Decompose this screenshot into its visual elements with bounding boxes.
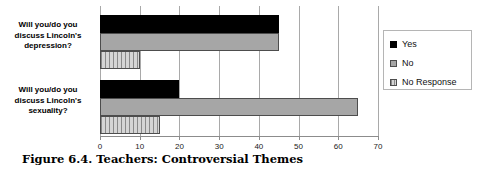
category-label-depression-line3: depression?: [0, 41, 96, 52]
legend-item-yes: Yes: [390, 38, 417, 50]
category-label-sexuality-line1: Will you/do you: [0, 85, 96, 96]
tick-mark-40: [259, 136, 260, 140]
x-axis-tick-label: 30: [207, 142, 231, 151]
figure-container: 010203040506070 Will you/do you discuss …: [0, 0, 478, 173]
bar-depression-no-response: [100, 51, 140, 69]
category-label-sexuality-line2: discuss Lincoln's: [0, 96, 96, 107]
category-label-sexuality: Will you/do you discuss Lincoln's sexual…: [0, 85, 96, 117]
figure-caption: Figure 6.4. Teachers: Controversial Them…: [22, 152, 303, 166]
x-axis-tick-label: 40: [247, 142, 271, 151]
tick-mark-0: [100, 136, 101, 140]
x-axis-tick-label: 60: [326, 142, 350, 151]
gridline-60: [338, 6, 339, 136]
x-axis-tick-label: 10: [128, 142, 152, 151]
tick-mark-20: [179, 136, 180, 140]
gridline-50: [299, 6, 300, 136]
bar-sexuality-no-response: [100, 116, 160, 134]
bar-depression-no: [100, 33, 279, 51]
x-axis-tick-label: 0: [88, 142, 112, 151]
hatched-square-icon: [390, 79, 397, 86]
gridline-70: [378, 6, 379, 136]
legend-item-no: No: [390, 57, 414, 69]
bar-depression-yes: [100, 15, 279, 33]
category-label-depression-line1: Will you/do you: [0, 20, 96, 31]
x-axis-tick-label: 70: [366, 142, 390, 151]
x-axis-tick-label: 20: [167, 142, 191, 151]
tick-mark-10: [140, 136, 141, 140]
category-label-sexuality-line3: sexuality?: [0, 106, 96, 117]
category-label-depression-line2: discuss Lincoln's: [0, 31, 96, 42]
x-axis-tick-label: 50: [287, 142, 311, 151]
black-square-icon: [390, 41, 397, 48]
bar-sexuality-yes: [100, 80, 179, 98]
chart-plot-area: 010203040506070: [100, 6, 378, 136]
legend-label: No: [402, 58, 414, 68]
tick-mark-70: [378, 136, 379, 140]
legend-label: Yes: [402, 39, 417, 49]
category-label-depression: Will you/do you discuss Lincoln's depres…: [0, 20, 96, 52]
chart-legend: YesNoNo Response: [383, 30, 472, 90]
tick-mark-50: [299, 136, 300, 140]
gray-square-icon: [390, 60, 397, 67]
tick-mark-60: [338, 136, 339, 140]
legend-item-no-response: No Response: [390, 76, 457, 88]
bar-sexuality-no: [100, 98, 358, 116]
x-axis-line: [100, 136, 379, 137]
legend-label: No Response: [402, 77, 457, 87]
tick-mark-30: [219, 136, 220, 140]
